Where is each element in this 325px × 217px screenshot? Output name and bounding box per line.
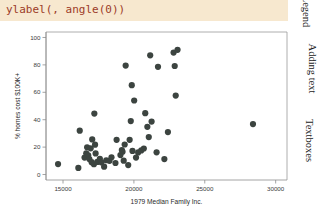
data-point [91,110,97,116]
x-tick-label: 15000 [54,185,72,192]
data-point [131,97,137,103]
scatter-plot-svg: 020406080100 15000200002500030000 1979 M… [0,21,288,217]
y-tick-label: 40 [34,116,41,123]
x-axis-title: 1979 Median Family Inc. [131,198,203,206]
data-point [119,149,125,155]
data-point [144,124,150,130]
y-tick-label: 80 [34,61,41,68]
data-point [128,118,134,124]
data-point [129,148,135,154]
data-point [55,161,61,167]
data-point [142,110,148,116]
y-tick-label: 100 [30,34,41,41]
x-tick-label: 30000 [267,185,285,192]
data-point [146,134,152,140]
data-point [173,92,179,98]
data-point [92,142,98,148]
y-tick-label: 0 [37,171,41,178]
data-point [172,63,178,69]
data-point [147,52,153,58]
data-point [153,149,159,155]
side-tab-adding-text[interactable]: Adding text [288,63,325,125]
data-point [165,129,171,135]
x-tick-label: 25000 [196,185,214,192]
side-tab-adding-text-label: Adding text [307,44,318,94]
scatter-plot: 020406080100 15000200002500030000 1979 M… [0,21,288,217]
side-tab-textboxes[interactable]: Textboxes [288,135,325,201]
data-point [89,136,95,142]
x-axis: 15000200002500030000 [46,180,287,192]
data-point [125,162,131,168]
data-point [123,62,129,68]
code-banner: ylabel(, angle(0)) [0,0,288,21]
side-tab-legend-label: Legend [301,0,312,27]
y-tick-label: 60 [34,88,41,95]
data-point [250,121,256,127]
data-point [75,165,81,171]
code-snippet-text: ylabel(, angle(0)) [6,3,125,16]
data-point [141,145,147,151]
y-axis: 020406080100 [30,32,46,180]
y-tick-label: 20 [34,143,41,150]
data-point [174,47,180,53]
data-point [108,154,114,160]
data-point [129,82,135,88]
data-point [127,137,133,143]
data-point [101,164,107,170]
data-point [161,156,167,162]
data-point [155,64,161,70]
x-tick-label: 20000 [125,185,143,192]
data-point [114,137,120,143]
y-axis-title: % homes cost $100K+ [14,73,21,139]
data-point [122,141,128,147]
side-tab-strip: Legend Adding text Textboxes [288,0,325,217]
data-point [112,160,118,166]
data-point [149,119,155,125]
data-point [93,150,99,156]
side-tab-textboxes-label: Textboxes [304,119,315,162]
data-markers [55,47,256,171]
data-point [121,158,127,164]
data-point [77,128,83,134]
